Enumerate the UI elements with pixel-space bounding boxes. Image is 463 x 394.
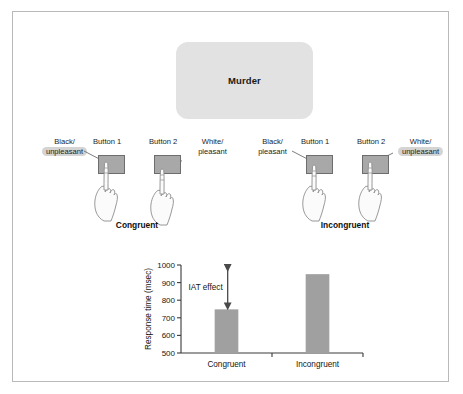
bar — [306, 274, 330, 353]
y-axis-tick-label: 800 — [162, 296, 176, 305]
hand-resting-button-2 — [147, 164, 187, 226]
y-axis-tick-label: 1000 — [157, 261, 175, 270]
iat-figure: Murder Black/ unpleasant Button 1 Button… — [0, 0, 463, 394]
bar — [215, 309, 239, 353]
condition-group-congruent: Black/ unpleasant Button 1 Button 2 Whit… — [37, 132, 237, 242]
stimulus-word: Murder — [176, 42, 313, 119]
hand-pressing-button-1 — [91, 160, 131, 222]
condition-caption-congruent: Congruent — [37, 220, 237, 230]
x-axis-tick-label: Incongruent — [296, 360, 340, 369]
x-axis-tick-label: Congruent — [207, 360, 246, 369]
y-axis-tick-label: 600 — [162, 331, 176, 340]
hand-pressing-button-2 — [355, 160, 395, 222]
y-axis-tick-label: 900 — [162, 279, 176, 288]
chart-svg: 5006007008009001000Response time (msec)C… — [141, 259, 371, 379]
y-axis-tick-label: 500 — [162, 349, 176, 358]
hand-resting-button-1 — [299, 160, 339, 222]
stimulus-box: Murder — [176, 42, 313, 119]
condition-caption-incongruent: Incongruent — [245, 220, 445, 230]
y-axis-title: Response time (msec) — [144, 268, 153, 350]
response-time-chart: 5006007008009001000Response time (msec)C… — [141, 259, 371, 379]
y-axis-tick-label: 700 — [162, 314, 176, 323]
figure-frame: Murder Black/ unpleasant Button 1 Button… — [12, 11, 449, 382]
iat-effect-label: IAT effect — [189, 283, 224, 292]
condition-group-incongruent: Black/ pleasant Button 1 Button 2 White/… — [245, 132, 445, 242]
